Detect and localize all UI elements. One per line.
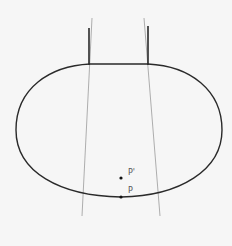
right-guide-line (144, 18, 160, 216)
outline-shape (16, 64, 222, 197)
left-guide-line (82, 18, 92, 216)
label-p: P (128, 186, 133, 195)
diagram-canvas: P' P (0, 0, 232, 246)
diagram-drawing (0, 0, 232, 246)
point-p (119, 195, 122, 198)
point-p-prime (119, 176, 122, 179)
label-p-prime: P' (128, 168, 135, 177)
